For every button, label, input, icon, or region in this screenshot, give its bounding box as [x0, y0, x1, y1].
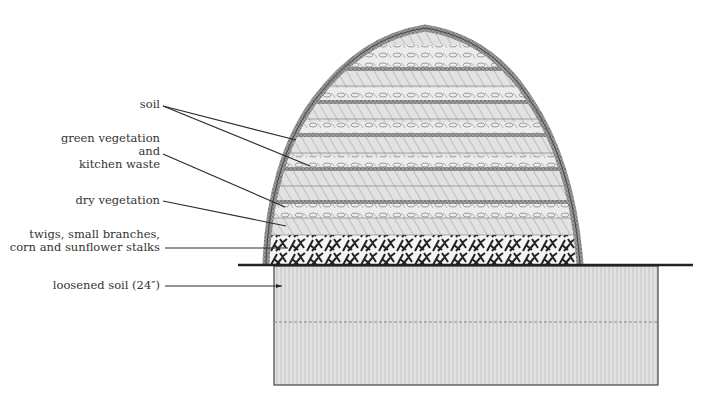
- soil-band: [260, 200, 590, 204]
- label-green-vegetation: green vegetation and kitchen waste: [61, 132, 160, 171]
- label-twigs: twigs, small branches, corn and sunflowe…: [10, 228, 160, 254]
- label-green-line3: kitchen waste: [61, 158, 160, 171]
- soil-band: [260, 167, 590, 171]
- soil-band: [260, 67, 590, 71]
- label-dry-vegetation: dry vegetation: [75, 194, 160, 207]
- twig-layer: [260, 235, 590, 265]
- loosened-soil-layer: [274, 266, 658, 385]
- label-soil-text: soil: [140, 98, 160, 111]
- mound-layers: [260, 20, 590, 270]
- label-dry-text: dry vegetation: [75, 194, 160, 207]
- label-twigs-line2: corn and sunflower stalks: [10, 241, 160, 254]
- soil-band: [260, 133, 590, 137]
- label-loosened-text: loosened soil (24″): [53, 279, 160, 292]
- label-soil: soil: [140, 98, 160, 111]
- label-loosened-soil: loosened soil (24″): [53, 279, 160, 292]
